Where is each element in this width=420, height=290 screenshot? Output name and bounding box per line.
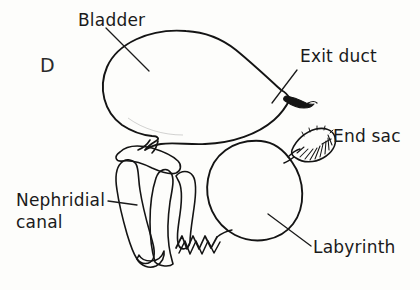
label-exit-duct: Exit duct xyxy=(300,46,377,66)
label-nephridial-canal-line1: Nephridial xyxy=(16,190,105,210)
bladder-shape xyxy=(103,31,290,150)
nephridial-canal-leader-line xyxy=(108,201,137,205)
nephridial-canal-structure xyxy=(116,140,232,267)
bladder-structure xyxy=(103,31,290,150)
nephridium-diagram: D Bladder Exit duct End sac Nephridial c… xyxy=(0,0,420,290)
exit-duct-structure xyxy=(284,96,317,108)
label-end-sac: End sac xyxy=(333,126,401,146)
label-nephridial-canal-line2: canal xyxy=(16,212,63,232)
figure-panel: D Bladder Exit duct End sac Nephridial c… xyxy=(0,0,420,290)
exit-duct-tip xyxy=(308,102,317,104)
end-sac-rim-ticks xyxy=(302,126,333,136)
label-bladder: Bladder xyxy=(78,10,145,30)
end-sac-structure xyxy=(284,126,335,163)
labyrinth-structure xyxy=(207,141,302,241)
label-labyrinth: Labyrinth xyxy=(313,237,395,257)
labyrinth-leader-line xyxy=(268,214,311,246)
end-sac-leader-line xyxy=(322,139,331,144)
canal-limb-left xyxy=(116,160,154,264)
bladder-leader-line xyxy=(106,28,149,71)
panel-letter-d: D xyxy=(40,54,55,76)
labyrinth-shape xyxy=(207,141,302,241)
